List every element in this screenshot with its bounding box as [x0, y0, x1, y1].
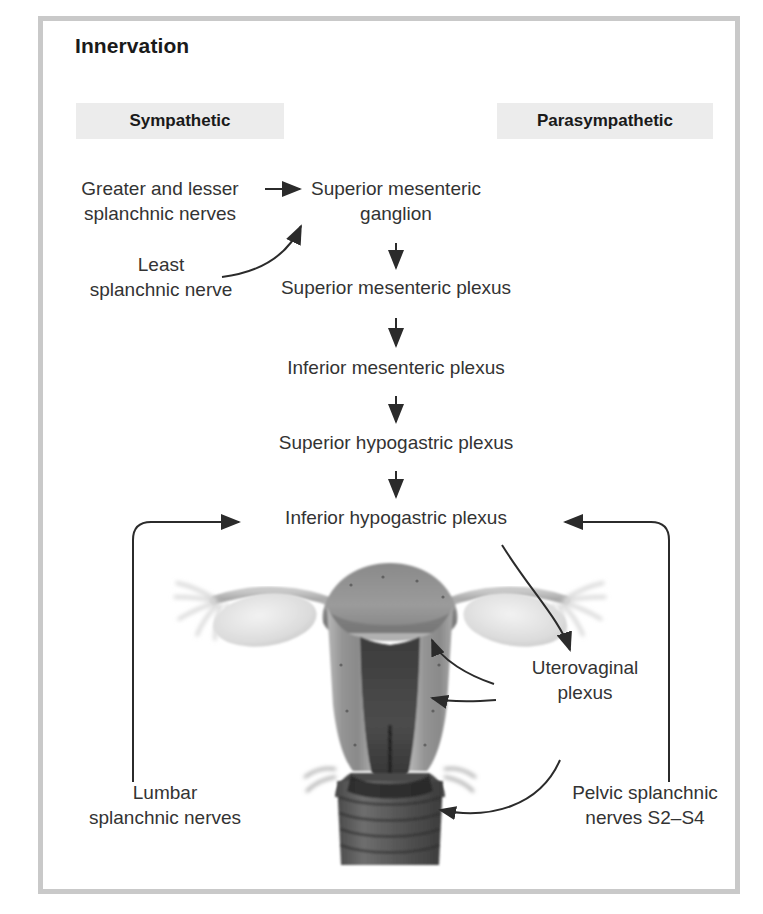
- node-greater-and-lesser-splanchnic-nerves: Greater and lesser splanchnic nerves: [60, 176, 260, 226]
- page-title: Innervation: [75, 34, 189, 58]
- diagram-page: Innervation Sympathetic Parasympathetic …: [0, 0, 763, 914]
- node-superior-mesenteric-plexus: Superior mesenteric plexus: [251, 275, 541, 300]
- node-inferior-mesenteric-plexus: Inferior mesenteric plexus: [251, 355, 541, 380]
- node-superior-hypogastric-plexus: Superior hypogastric plexus: [246, 430, 546, 455]
- node-inferior-hypogastric-plexus: Inferior hypogastric plexus: [246, 505, 546, 530]
- uterus-coronal-section-illustration: [155, 545, 625, 875]
- column-header-parasympathetic: Parasympathetic: [497, 103, 713, 139]
- node-least-splanchnic-nerve: Least splanchnic nerve: [76, 252, 246, 302]
- column-header-sympathetic: Sympathetic: [76, 103, 284, 139]
- node-superior-mesenteric-ganglion: Superior mesenteric ganglion: [296, 176, 496, 226]
- uterus-body: [322, 563, 457, 795]
- vagina: [337, 775, 443, 865]
